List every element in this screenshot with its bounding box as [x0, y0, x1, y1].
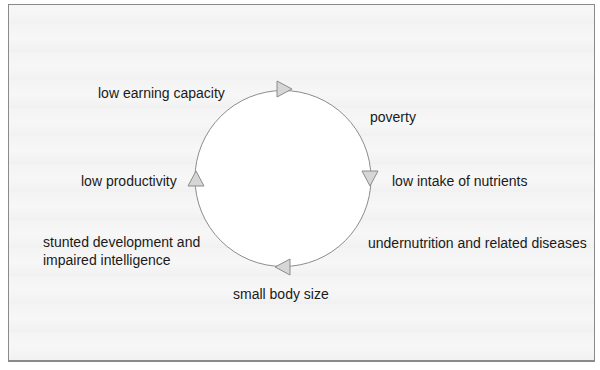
node-low-productivity: low productivity [81, 172, 177, 190]
node-undernutrition: undernutrition and related diseases [368, 234, 587, 252]
node-stunted-development: stunted development and impaired intelli… [43, 233, 213, 269]
cycle-circle [195, 91, 371, 267]
node-poverty: poverty [370, 108, 416, 126]
node-low-intake-of-nutrients: low intake of nutrients [392, 172, 527, 190]
node-small-body-size: small body size [233, 285, 329, 303]
node-low-earning-capacity: low earning capacity [98, 84, 225, 102]
